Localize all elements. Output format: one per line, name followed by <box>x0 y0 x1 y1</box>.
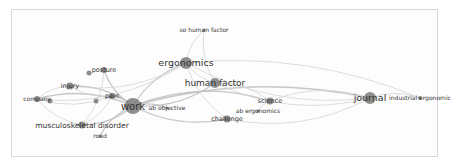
label-so_human_factor: so human factor <box>179 26 229 33</box>
label-journal: journal <box>353 92 387 103</box>
label-challenge: challenge <box>211 115 243 123</box>
label-science: science <box>258 97 282 105</box>
label-company: company <box>23 95 51 103</box>
keyword-network: workergonomicshuman factorjournalindustr… <box>0 0 463 165</box>
label-posture: posture <box>92 66 117 74</box>
label-work: work <box>121 101 145 112</box>
label-industrial_ergonomic: industrial ergonomic <box>389 94 451 102</box>
label-ab_objective: ab objective <box>149 104 186 112</box>
label-ab_ergonomics: ab ergonomics <box>236 107 280 115</box>
label-ergonomics: ergonomics <box>158 57 213 68</box>
labels-layer: workergonomicshuman factorjournalindustr… <box>23 26 451 139</box>
node-pain2[interactable] <box>94 99 99 104</box>
label-road: road <box>93 132 107 139</box>
label-human_factor: human factor <box>185 78 246 88</box>
label-injury: injury <box>61 82 80 90</box>
label-pain: pain <box>105 92 119 100</box>
label-musculoskeletal_disorder: musculoskeletal disorder <box>35 121 129 130</box>
